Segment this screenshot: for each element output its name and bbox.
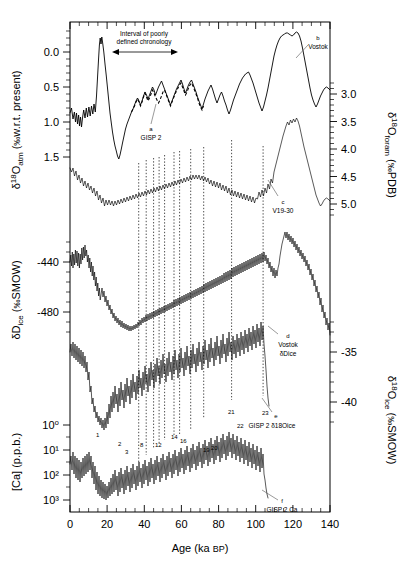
x-tick-100: 100 xyxy=(247,518,265,530)
label-c-text: V19-30 xyxy=(273,207,294,214)
interstadial-12: 12 xyxy=(155,442,162,448)
label-b-text: Vostok xyxy=(308,43,328,50)
interstadial-22: 22 xyxy=(237,423,244,429)
ytick-foram-1: 3.5 xyxy=(341,116,356,128)
x-tick-80: 80 xyxy=(212,518,224,530)
label-d-line2: δDice xyxy=(280,350,297,357)
curve-e-gisp2-d18Oice xyxy=(70,322,269,430)
interstadial-2: 2 xyxy=(118,441,122,447)
ca-axis-text: [Ca] (p.p.b.) xyxy=(10,433,22,491)
right-axis-d18Oice-tick-labels: -35 -40 xyxy=(341,346,357,408)
annotation-a-gisp2: a GISP 2 xyxy=(141,104,162,141)
ytick-atm-3: 1.5 xyxy=(44,151,59,163)
ytick-ca-1: 10¹ xyxy=(43,444,59,456)
right-axis-d18Oforam-tick-labels: 3.0 3.5 4.0 4.5 5.0 xyxy=(341,88,356,210)
label-d-letter: d xyxy=(286,333,289,339)
left-axis-dDice-tick-labels: -440 -480 xyxy=(37,256,59,318)
poor-chronology-annotation: Interval of poorly defined chronology xyxy=(112,30,178,55)
left-axis-d18Oatm-tick-labels: 0.0 0.5 1.0 1.5 xyxy=(44,46,59,163)
x-tick-140: 140 xyxy=(321,518,339,530)
plot-frame xyxy=(70,22,330,512)
svg-text:δ18Oforam (‰PDB): δ18Oforam (‰PDB) xyxy=(383,112,398,198)
interstadial-14: 14 xyxy=(171,434,178,440)
ytick-foram-3: 4.5 xyxy=(341,171,356,183)
right-axis-d18Oforam-label: δ18Oforam (‰PDB) xyxy=(383,112,398,198)
interstadial-23: 23 xyxy=(262,410,269,416)
curve-a-gisp2-d18Oatm xyxy=(132,83,204,112)
left-axis-ca-label: [Ca] (p.p.b.) xyxy=(10,433,22,491)
interstadial-21: 21 xyxy=(228,409,235,415)
svg-text:δ18Oatm (‰w.r.t. present): δ18Oatm (‰w.r.t. present) xyxy=(9,71,25,190)
ytick-foram-0: 3.0 xyxy=(341,88,356,100)
paleoclimate-multipanel-chart: 0 20 40 60 80 100 120 140 Age (ka BP) 0.… xyxy=(0,0,398,580)
svg-text:δ18Oice (‰SMOW): δ18Oice (‰SMOW) xyxy=(383,376,398,465)
top-axis-ticks xyxy=(70,22,330,29)
right-axis-d18Oforam-ticks xyxy=(330,83,337,215)
annotation-c-v1930: c V19-30 xyxy=(268,180,294,214)
curve-b-vostok-d18Oatm xyxy=(70,32,330,159)
left-axis-d18Oatm-label: δ18Oatm (‰w.r.t. present) xyxy=(9,71,25,190)
ytick-ca-3: 10³ xyxy=(43,494,59,506)
interstadial-8: 8 xyxy=(140,442,144,448)
ytick-dD-0: -440 xyxy=(37,256,59,268)
x-tick-120: 120 xyxy=(284,518,302,530)
ytick-ice-1: -40 xyxy=(341,396,357,408)
label-a-letter: a xyxy=(149,126,153,132)
ytick-atm-0: 0.0 xyxy=(44,46,59,58)
x-tick-20: 20 xyxy=(101,518,113,530)
curve-f-gisp2-ca xyxy=(70,432,268,500)
left-axis-dDice-ticks xyxy=(63,242,70,332)
interstadial-3: 3 xyxy=(125,449,129,455)
curve-c-v1930-d18Oforam xyxy=(70,118,330,206)
x-axis-label: Age (ka BP) xyxy=(172,542,229,554)
ytick-atm-2: 1.0 xyxy=(44,116,59,128)
figure-root: 0 20 40 60 80 100 120 140 Age (ka BP) 0.… xyxy=(0,0,398,580)
chronology-note-line1: Interval of poorly xyxy=(120,30,169,38)
annotation-b-vostok: b Vostok xyxy=(296,35,329,58)
label-f-text: GISP 2 Ca xyxy=(267,506,298,513)
x-tick-labels: 0 20 40 60 80 100 120 140 xyxy=(67,518,339,530)
left-axis-d18Oatm-ticks xyxy=(63,31,70,157)
ytick-dD-1: -480 xyxy=(37,306,59,318)
x-tick-0: 0 xyxy=(67,518,73,530)
x-tick-60: 60 xyxy=(175,518,187,530)
label-c-letter: c xyxy=(282,199,285,205)
label-f-letter: f xyxy=(281,498,283,504)
svg-text:δDice (‰SMOW): δDice (‰SMOW) xyxy=(10,260,25,339)
right-axis-d18Oice-ticks xyxy=(330,322,337,422)
ytick-ice-0: -35 xyxy=(341,346,357,358)
ytick-ca-2: 10² xyxy=(43,469,59,481)
ytick-ca-0: 10⁰ xyxy=(42,419,59,431)
label-e-letter: e xyxy=(274,413,278,419)
interstadial-1: 1 xyxy=(96,432,100,438)
left-axis-ca-ticks xyxy=(63,425,70,500)
annotation-f-gisp2-ca: f GISP 2 Ca xyxy=(262,490,298,513)
x-tick-40: 40 xyxy=(138,518,150,530)
left-axis-dDice-label: δDice (‰SMOW) xyxy=(10,260,25,339)
chronology-double-arrow xyxy=(112,49,178,55)
curve-d-vostok-dDice xyxy=(70,232,330,335)
annotation-d-vostok-dD: d Vostok δDice xyxy=(268,326,299,357)
interstadial-20: 20 xyxy=(211,445,218,451)
label-a-text: GISP 2 xyxy=(141,134,162,141)
label-b-letter: b xyxy=(316,35,320,41)
left-axis-ca-tick-labels: 10⁰ 10¹ 10² 10³ xyxy=(42,419,59,506)
ytick-atm-1: 0.5 xyxy=(44,81,59,93)
right-axis-d18Oice-label: δ18Oice (‰SMOW) xyxy=(383,376,398,465)
ytick-foram-2: 4.0 xyxy=(341,143,356,155)
label-e-text: GISP 2 δ18Oice xyxy=(249,422,296,429)
interstadial-19: 19 xyxy=(203,447,210,453)
annotation-e-gisp2-ice: e GISP 2 δ18Oice xyxy=(249,398,296,429)
label-d-line1: Vostok xyxy=(278,341,298,348)
interstadial-16: 16 xyxy=(180,438,187,444)
chronology-note-line2: defined chronology xyxy=(117,38,173,46)
ytick-foram-4: 5.0 xyxy=(341,198,356,210)
